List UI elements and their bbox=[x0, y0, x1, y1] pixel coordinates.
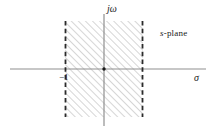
origin-dot bbox=[102, 67, 105, 70]
jomega-axis-label: jω bbox=[107, 4, 117, 14]
sigma-axis-label: σ bbox=[194, 73, 199, 83]
s-plane-figure: jω σ s-plane −1 bbox=[0, 0, 220, 132]
tick-label-minus-one: −1 bbox=[59, 73, 69, 82]
s-plane-label: s-plane bbox=[160, 29, 187, 38]
s-plane-diagram-canvas bbox=[0, 0, 220, 132]
s-plane-label-suffix: -plane bbox=[164, 28, 188, 38]
